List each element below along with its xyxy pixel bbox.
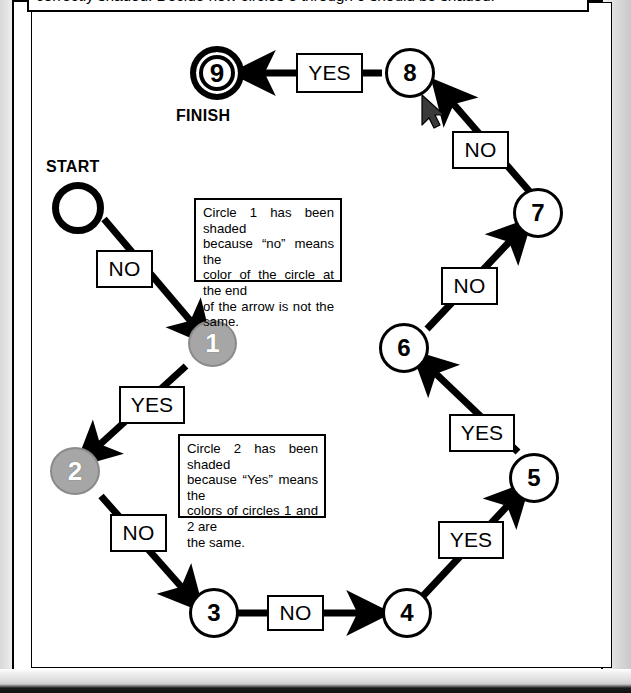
edge-label-8-to-9[interactable]: YES [296,53,363,93]
edge-label-3-to-4[interactable]: NO [267,595,324,631]
note-circle-1-line-1: Circle 1 has been shaded [203,205,334,236]
instruction-bar: correctly shaded. Decide how circles 3 t… [27,0,589,12]
worksheet-page: correctly shaded. Decide how circles 3 t… [0,0,631,693]
node-circle-9[interactable]: 9 [190,46,244,100]
edge-label-1-to-2[interactable]: YES [119,386,185,424]
node-circle-6[interactable]: 6 [379,323,429,373]
note-circle-2-line-3: colors of circles 1 and 2 are [187,503,318,534]
note-circle-1: Circle 1 has been shaded because “no” me… [194,198,342,282]
edge-label-5-to-6[interactable]: YES [449,414,515,452]
paper-frame-outer [12,0,603,671]
edge-label-6-to-7[interactable]: NO [441,267,498,305]
note-circle-1-line-4: of the arrow is not the same. [203,299,334,330]
edge-label-start-to-1[interactable]: NO [96,250,153,288]
scan-bottom-edge [0,669,631,693]
node-circle-3[interactable]: 3 [189,588,239,638]
start-caption: START [46,158,100,176]
edge-label-7-to-8[interactable]: NO [452,131,509,169]
finish-caption: FINISH [176,107,230,125]
note-circle-2-line-2: because “Yes” means the [187,472,318,503]
node-start[interactable] [52,182,104,234]
node-circle-4[interactable]: 4 [382,588,432,638]
paper-frame-inner [31,2,612,668]
instruction-text: correctly shaded. Decide how circles 3 t… [36,0,495,5]
node-circle-7[interactable]: 7 [513,188,563,238]
edge-label-4-to-5[interactable]: YES [438,521,504,559]
node-circle-8[interactable]: 8 [385,48,435,98]
note-circle-2: Circle 2 has been shaded because “Yes” m… [178,434,326,518]
node-circle-2[interactable]: 2 [50,447,100,495]
note-circle-1-line-2: because “no” means the [203,236,334,267]
note-circle-1-line-3: color of the circle at the end [203,267,334,298]
note-circle-2-line-1: Circle 2 has been shaded [187,441,318,472]
edge-label-2-to-3[interactable]: NO [110,514,167,552]
note-circle-2-line-4: the same. [187,535,318,551]
node-circle-5[interactable]: 5 [509,453,559,503]
